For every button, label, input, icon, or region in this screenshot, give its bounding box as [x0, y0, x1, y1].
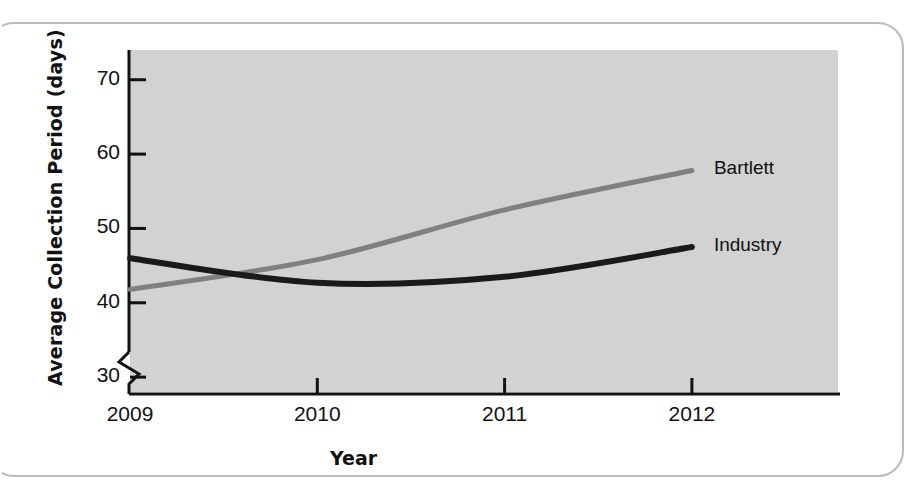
x-axis-title: Year [330, 447, 377, 469]
y-tick-label: 40 [74, 289, 120, 313]
plot-background [130, 50, 838, 392]
line-chart: Average Collection Period (days) Year 30… [0, 0, 916, 499]
x-tick-label: 2011 [465, 402, 545, 426]
y-tick-label: 30 [74, 363, 120, 387]
figure-root: Average Collection Period (days) Year 30… [0, 0, 916, 499]
series-label-bartlett: Bartlett [714, 157, 774, 179]
y-tick-label: 70 [74, 66, 120, 90]
y-tick-label: 50 [74, 214, 120, 238]
x-tick-label: 2009 [90, 402, 170, 426]
series-label-industry: Industry [714, 234, 782, 256]
x-tick-label: 2012 [652, 402, 732, 426]
y-tick-label: 60 [74, 140, 120, 164]
x-tick-label: 2010 [277, 402, 357, 426]
y-axis-title: Average Collection Period (days) [44, 66, 66, 386]
